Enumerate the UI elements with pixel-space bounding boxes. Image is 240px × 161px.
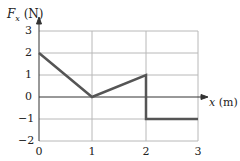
x-tick-0: 0 [33, 146, 45, 157]
y-tick-3: 3 [20, 25, 32, 36]
x-tick-3: 3 [192, 146, 204, 157]
y-tick-0: 0 [20, 91, 32, 102]
y-tick-minus-1: −1 [18, 113, 32, 124]
x-axis-label: x (m) [209, 97, 238, 108]
y-tick-1: 1 [20, 69, 32, 80]
x-tick-1: 1 [86, 146, 98, 157]
axes [37, 17, 209, 141]
force-data-line [39, 53, 198, 119]
x-axis-arrow-icon [201, 95, 208, 100]
plot-area [0, 0, 240, 161]
y-tick-2: 2 [20, 47, 32, 58]
force-position-chart: Fx (N) x (m) 3 2 1 0 −1 −2 0 1 2 3 [0, 0, 240, 161]
y-axis-label: Fx (N) [7, 8, 44, 23]
x-axis-label-unit: (m) [215, 96, 238, 109]
y-axis-label-unit: (N) [20, 7, 44, 21]
y-tick-minus-2: −2 [18, 135, 32, 146]
x-tick-2: 2 [140, 146, 152, 157]
